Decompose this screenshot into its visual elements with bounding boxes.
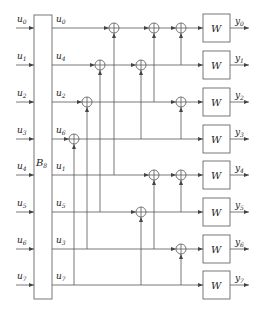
channel-w-label: W [211,244,222,255]
xor-gate [149,170,159,180]
xor-gate [176,244,186,254]
xor-gate [176,97,186,107]
xor-gate [136,207,146,217]
input-label: u5 [17,198,27,209]
permuted-label: u0 [56,14,66,25]
input-label: u7 [17,271,27,282]
input-label: u3 [17,125,27,136]
channel-w-label: W [211,134,222,145]
xor-gate [109,23,119,33]
output-label: y5 [234,200,244,211]
permuted-label: u7 [56,271,66,282]
input-label: u1 [17,51,27,62]
permuted-label: u3 [56,235,66,246]
xor-gate [176,23,186,33]
output-label: y4 [234,163,244,174]
channel-w-label: W [211,97,222,108]
permuted-label: u5 [56,198,66,209]
permuted-label: u2 [56,88,66,99]
output-label: y0 [234,16,244,27]
xor-gate [69,134,79,144]
output-label: y6 [234,237,244,248]
xor-gate [95,60,105,70]
channels: WWWWWWWW [203,14,230,299]
output-label: y7 [234,273,244,284]
input-label: u2 [17,88,27,99]
channel-w-label: W [211,207,222,218]
channel-w-label: W [211,23,222,34]
polar-encoder-diagram: B8 u0u0y0u1u4y1u2u2y2u3u6y3u4u1y4u5u5y5u… [0,0,259,314]
output-label: y2 [234,90,244,101]
channel-w-label: W [211,60,222,71]
xor-gate [149,23,159,33]
permuted-label: u6 [56,125,66,136]
xor-gate [176,170,186,180]
channel-w-label: W [211,170,222,181]
xor-gate [82,97,92,107]
xor-gates [69,23,186,254]
output-label: y3 [234,127,244,138]
input-label: u0 [17,14,27,25]
input-label: u6 [17,235,27,246]
xor-gate [136,60,146,70]
permuted-label: u1 [56,161,66,172]
channel-w-label: W [211,280,222,291]
permuted-label: u4 [56,51,66,62]
input-label: u4 [17,161,27,172]
output-label: y1 [234,53,244,64]
